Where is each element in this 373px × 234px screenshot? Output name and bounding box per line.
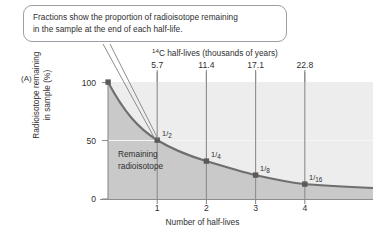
radioisotope-decay-figure: Fractions show the proportion of radiois… [0, 0, 373, 234]
region-label-line-2: radioisotope [118, 160, 163, 172]
remaining-radioisotope-label: Remaining radioisotope [118, 148, 163, 172]
top-tick-label-2: 11.4 [198, 60, 214, 70]
data-point-0 [105, 79, 110, 84]
fraction-denominator-2: 4 [217, 153, 221, 160]
callout-line-1: Fractions show the proportion of radiois… [33, 11, 278, 23]
data-point-4 [302, 181, 307, 186]
x-tick-label-1: 1 [155, 203, 160, 213]
callout-line-2: in the sample at the end of each half-li… [33, 23, 278, 35]
x-axis-title-text: Number of half-lives [166, 217, 240, 227]
top-axis-title: 14C half-lives (thousands of years) [152, 48, 278, 58]
callout-box: Fractions show the proportion of radiois… [23, 5, 287, 42]
y-tick-label-100: 100 [82, 78, 96, 88]
y-axis-title-line-2: in sample (%) [42, 39, 53, 151]
x-tick-label-4: 4 [302, 203, 307, 213]
fraction-denominator-3: 8 [266, 167, 270, 174]
top-tick-label-4: 22.8 [296, 60, 313, 70]
fraction-label-quarter: 1/4 [211, 150, 221, 159]
top-axis-title-text: C half-lives (thousands of years) [159, 48, 278, 58]
top-axis-title-superscript: 14 [152, 47, 159, 54]
y-tick-label-50: 50 [86, 136, 96, 146]
fraction-denominator-1: 2 [168, 132, 172, 139]
data-point-3 [253, 172, 258, 177]
y-tick-label-0: 0 [91, 194, 96, 204]
region-label-line-1: Remaining [118, 148, 163, 160]
fraction-denominator-4: 16 [315, 176, 322, 183]
x-tick-label-3: 3 [253, 203, 258, 213]
top-tick-label-3: 17.1 [247, 60, 264, 70]
x-axis-title: Number of half-lives [0, 217, 373, 227]
y-axis-title: Radioisotope remaining in sample (%) [31, 39, 53, 151]
fraction-label-sixteenth: 1/16 [309, 173, 322, 182]
y-axis-title-line-1: Radioisotope remaining [31, 39, 42, 151]
x-tick-label-2: 2 [204, 203, 209, 213]
fraction-label-eighth: 1/8 [260, 164, 270, 173]
top-tick-label-1: 5.7 [151, 60, 163, 70]
data-point-2 [204, 158, 209, 163]
fraction-label-half: 1/2 [162, 129, 172, 138]
